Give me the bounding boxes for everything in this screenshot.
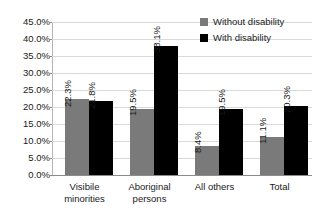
category-label-aboriginal-persons: Aboriginal persons <box>117 181 182 205</box>
y-tick-label: 0.0% <box>4 170 50 180</box>
value-label-without-disability: 19.5% <box>128 89 138 116</box>
bar-without-disability <box>65 99 89 175</box>
category-label-all-others: All others <box>182 181 247 193</box>
y-tick-label: 5.0% <box>4 153 50 163</box>
gridline-baseline <box>52 175 312 176</box>
legend-label: Without disability <box>213 17 284 27</box>
value-label-without-disability: 22.3% <box>63 80 73 107</box>
y-tick-label: 30.0% <box>4 68 50 78</box>
y-tick-label: 10.0% <box>4 136 50 146</box>
legend: Without disability With disability <box>200 14 316 46</box>
value-label-without-disability: 8.4% <box>193 131 203 153</box>
y-tick-label: 45.0% <box>4 17 50 27</box>
value-label-with-disability: 21.8% <box>87 82 97 109</box>
category-label-line: Aboriginal <box>117 181 182 193</box>
value-label-without-disability: 11.1% <box>258 118 268 144</box>
legend-item-with-disability: With disability <box>200 30 316 46</box>
category-label-line: persons <box>117 193 182 205</box>
legend-swatch-icon <box>200 34 208 42</box>
value-label-with-disability: 20.3% <box>282 86 292 113</box>
category-label-visibile-minorities: Visibile minorities <box>52 181 117 205</box>
y-axis: 45.0% 40.0% 35.0% 30.0% 25.0% 20.0% 15.0… <box>0 0 50 220</box>
bar-without-disability <box>130 109 154 175</box>
bar-with-disability <box>219 109 243 175</box>
category-label-line: minorities <box>52 193 117 205</box>
legend-swatch-icon <box>200 18 208 26</box>
y-tick-label: 25.0% <box>4 85 50 95</box>
bar-with-disability <box>284 106 308 175</box>
value-label-with-disability: 19.5% <box>217 89 227 116</box>
y-tick-label: 15.0% <box>4 119 50 129</box>
legend-label: With disability <box>213 33 271 43</box>
gridline <box>52 56 312 57</box>
y-tick-label: 35.0% <box>4 51 50 61</box>
category-label-total: Total <box>247 181 312 193</box>
bar-chart: 45.0% 40.0% 35.0% 30.0% 25.0% 20.0% 15.0… <box>0 0 318 220</box>
category-label-line: Visibile <box>52 181 117 193</box>
legend-item-without-disability: Without disability <box>200 14 316 30</box>
bar-with-disability <box>89 101 113 175</box>
y-tick-label: 40.0% <box>4 34 50 44</box>
category-label-line: Total <box>247 181 312 193</box>
category-label-line: All others <box>182 181 247 193</box>
gridline <box>52 73 312 74</box>
bar-with-disability <box>154 46 178 176</box>
value-label-with-disability: 38.1% <box>152 26 162 53</box>
y-tick-label: 20.0% <box>4 102 50 112</box>
